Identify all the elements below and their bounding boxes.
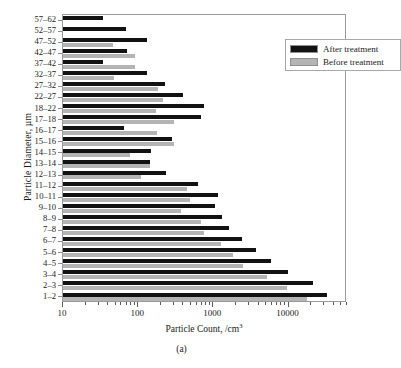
bar-row	[63, 259, 345, 270]
bar-before	[63, 76, 114, 80]
bar-after	[63, 82, 165, 86]
bar-before	[63, 175, 141, 179]
x-minor-tick	[209, 302, 210, 305]
bar-after	[63, 270, 288, 274]
x-minor-tick	[201, 302, 202, 305]
x-minor-tick	[284, 302, 285, 305]
bar-after	[63, 149, 151, 153]
x-minor-tick	[160, 302, 161, 305]
x-minor-tick	[107, 302, 108, 305]
bar-row	[63, 181, 345, 192]
bar-after	[63, 16, 103, 20]
x-minor-tick	[333, 302, 334, 305]
x-minor-tick	[205, 302, 206, 305]
x-axis-title: Particle Count, /cm3	[62, 322, 346, 334]
bar-row	[63, 148, 345, 159]
y-tick-label: 13–14	[35, 159, 56, 168]
x-minor-tick	[134, 302, 135, 305]
y-tick-label: 10–11	[35, 192, 56, 201]
chart-legend: After treatment Before treatment	[285, 39, 401, 71]
x-minor-tick	[265, 302, 266, 305]
bar-after	[63, 248, 256, 252]
bar-row	[63, 203, 345, 214]
x-minor-tick	[130, 302, 131, 305]
bar-after	[63, 115, 201, 119]
y-tick-label: 47–52	[35, 37, 56, 46]
bar-after	[63, 182, 198, 186]
x-minor-tick	[280, 302, 281, 305]
bar-row	[63, 104, 345, 115]
y-tick-label: 42–47	[35, 48, 56, 57]
x-minor-tick	[120, 302, 121, 305]
y-tick-label: 2–3	[43, 281, 56, 290]
bar-after	[63, 49, 127, 53]
x-minor-tick	[173, 302, 174, 305]
y-tick-label: 8–9	[43, 214, 56, 223]
bar-row	[63, 281, 345, 292]
y-tick-label: 7–8	[43, 225, 56, 234]
bar-after	[63, 60, 103, 64]
x-minor-tick	[98, 302, 99, 305]
x-axis-tick-labels: 10100100010000	[0, 308, 363, 320]
y-tick-label: 15–16	[35, 137, 56, 146]
bar-before	[63, 187, 187, 191]
x-minor-tick	[126, 302, 127, 305]
y-axis-tick-labels: 57–6252–5747–5242–4737–4232–3727–3222–27…	[0, 14, 60, 302]
bar-row	[63, 159, 345, 170]
bar-after	[63, 171, 166, 175]
bar-row	[63, 225, 345, 236]
bar-after	[63, 293, 327, 297]
bar-after	[63, 226, 229, 230]
bar-row	[63, 192, 345, 203]
y-tick-label: 11–12	[35, 181, 56, 190]
bar-after	[63, 27, 126, 31]
legend-swatch-before	[290, 58, 318, 66]
y-tick-label: 18–22	[35, 104, 56, 113]
bar-before	[63, 286, 287, 290]
bar-after	[63, 160, 150, 164]
legend-label-before: Before treatment	[323, 57, 384, 67]
x-tick-label: 10	[58, 308, 67, 318]
bar-before	[63, 120, 174, 124]
x-minor-tick	[115, 302, 116, 305]
bar-before	[63, 231, 204, 235]
x-minor-tick	[271, 302, 272, 305]
y-tick-label: 14–15	[35, 148, 56, 157]
x-tick-label: 10000	[276, 308, 299, 318]
bar-row	[63, 248, 345, 259]
bar-after	[63, 71, 147, 75]
y-tick-label: 16–17	[35, 126, 56, 135]
x-axis-title-text: Particle Count, /cm3	[166, 324, 243, 334]
bar-row	[63, 126, 345, 137]
x-major-tick	[137, 302, 138, 307]
bar-before	[63, 209, 181, 213]
legend-item-after: After treatment	[290, 43, 396, 55]
bar-before	[63, 43, 113, 47]
x-tick-label: 100	[130, 308, 144, 318]
legend-item-before: Before treatment	[290, 56, 396, 68]
plot-area: After treatment Before treatment	[62, 14, 346, 302]
bar-row	[63, 26, 345, 37]
figure-caption: (a)	[0, 344, 363, 354]
x-major-tick	[212, 302, 213, 307]
y-tick-label: 4–5	[43, 259, 56, 268]
x-minor-tick	[276, 302, 277, 305]
bar-row	[63, 137, 345, 148]
bar-before	[63, 65, 135, 69]
x-minor-tick	[323, 302, 324, 305]
bar-before	[63, 142, 174, 146]
y-tick-label: 3–4	[43, 270, 56, 279]
bar-row	[63, 170, 345, 181]
bar-before	[63, 164, 150, 168]
legend-swatch-after	[290, 45, 318, 53]
x-tick-label: 1000	[203, 308, 221, 318]
bar-row	[63, 214, 345, 225]
bar-after	[63, 193, 218, 197]
x-minor-tick	[235, 302, 236, 305]
y-tick-label: 6–7	[43, 236, 56, 245]
x-minor-tick	[310, 302, 311, 305]
bar-before	[63, 109, 156, 113]
y-tick-label: 9–10	[39, 203, 56, 212]
bar-row	[63, 237, 345, 248]
